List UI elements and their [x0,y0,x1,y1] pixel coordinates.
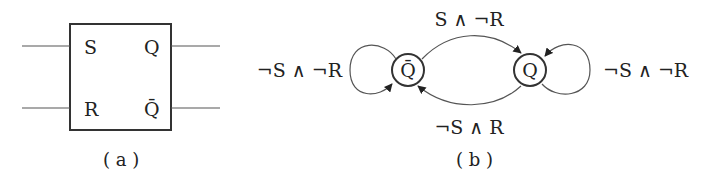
label-self-q: ¬S ∧ ¬R [603,59,689,81]
transition-q-to-q-bar [418,86,521,105]
label-self-q-bar: ¬S ∧ ¬R [257,59,343,81]
pin-label-q: Q [144,36,160,58]
pin-label-q-bar: Q̄ [144,98,160,120]
pin-label-r: R [84,98,99,120]
state-label-q-bar: Q̄ [400,59,416,81]
state-label-q: Q [522,59,538,81]
caption-b: ( b ) [456,149,493,170]
transition-self-q [542,44,590,94]
label-q-bar-to-q: S ∧ ¬R [434,8,504,30]
transition-self-q-bar [350,45,396,94]
caption-a: ( a ) [103,149,139,170]
label-q-to-q-bar: ¬S ∧ R [434,116,504,138]
sr-flip-flop-block: S R Q Q̄ ( a ) [22,24,220,170]
pin-label-s: S [84,36,97,58]
figure: S R Q Q̄ ( a ) Q̄ Q ¬S ∧ ¬R S ∧ ¬R ¬S ∧ … [0,0,703,190]
transition-q-bar-to-q [422,36,521,59]
state-diagram: Q̄ Q ¬S ∧ ¬R S ∧ ¬R ¬S ∧ R ¬S ∧ ¬R ( b ) [257,8,689,170]
